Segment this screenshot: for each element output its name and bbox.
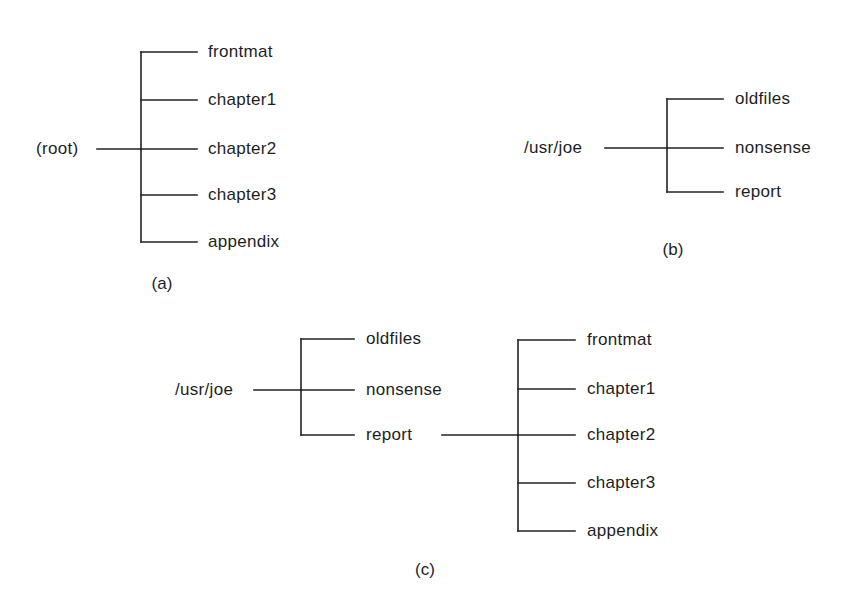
tree-node-oldfiles: oldfiles	[735, 89, 790, 109]
root-node: /usr/joe	[175, 380, 233, 400]
tree-node-chapter2: chapter2	[208, 139, 277, 159]
tree-node-report: report	[735, 182, 781, 202]
tree-node-chapter3: chapter3	[208, 185, 277, 205]
tree-node-appendix: appendix	[208, 232, 279, 252]
tree-node-report: report	[366, 425, 412, 445]
tree-node-chapter3: chapter3	[587, 473, 656, 493]
diagram-caption-b: (b)	[663, 240, 684, 260]
tree-node-oldfiles: oldfiles	[366, 329, 421, 349]
diagram-caption-c: (c)	[415, 560, 435, 580]
root-node: (root)	[36, 139, 78, 159]
diagram-c-connectors	[254, 339, 575, 531]
tree-node-chapter1: chapter1	[208, 90, 277, 110]
tree-node-appendix: appendix	[587, 521, 658, 541]
diagram-a-connectors	[97, 52, 197, 242]
tree-node-nonsense: nonsense	[735, 138, 811, 158]
tree-connectors	[0, 0, 854, 593]
tree-node-frontmat: frontmat	[208, 42, 273, 62]
diagram-b-connectors	[605, 99, 723, 192]
tree-node-nonsense: nonsense	[366, 380, 442, 400]
diagram-caption-a: (a)	[152, 274, 173, 294]
tree-node-chapter1: chapter1	[587, 379, 656, 399]
tree-node-frontmat: frontmat	[587, 330, 652, 350]
tree-node-chapter2: chapter2	[587, 425, 656, 445]
root-node: /usr/joe	[524, 138, 582, 158]
